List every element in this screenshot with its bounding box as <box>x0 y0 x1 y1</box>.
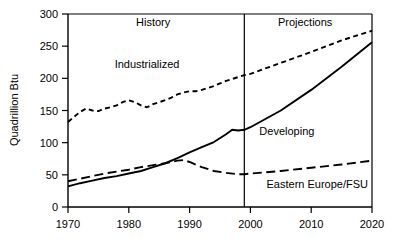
x-tick-label: 2000 <box>238 218 262 230</box>
y-tick-label: 300 <box>40 8 58 20</box>
x-tick-group: 197019801990200020102020 <box>56 207 384 230</box>
series-line-developing <box>68 42 372 186</box>
x-tick-label: 2010 <box>299 218 323 230</box>
y-axis-title: Quadrillion Btu <box>8 74 20 146</box>
x-axis: 197019801990200020102020 <box>56 207 384 230</box>
annotation-history: History <box>136 16 171 28</box>
annotation-group: HistoryProjectionsIndustrializedDevelopi… <box>115 16 368 191</box>
energy-consumption-chart: Quadrillion Btu 050100150200250300 19701… <box>0 0 397 248</box>
y-tick-label: 200 <box>40 72 58 84</box>
annotation-industrialized: Industrialized <box>115 58 180 70</box>
x-tick-label: 2020 <box>360 218 384 230</box>
y-tick-label: 250 <box>40 40 58 52</box>
series-line-industrialized <box>68 31 372 122</box>
y-tick-label: 150 <box>40 105 58 117</box>
x-tick-label: 1990 <box>177 218 201 230</box>
y-axis-title-text: Quadrillion Btu <box>8 74 20 146</box>
y-tick-label: 100 <box>40 137 58 149</box>
y-tick-group: 050100150200250300 <box>40 8 68 213</box>
annotation-developing: Developing <box>259 125 314 137</box>
series-group <box>68 31 372 187</box>
annotation-eastern-europe-fsu: Eastern Europe/FSU <box>267 178 369 190</box>
annotation-projections: Projections <box>278 16 333 28</box>
y-tick-label: 0 <box>52 201 58 213</box>
x-tick-label: 1980 <box>117 218 141 230</box>
x-tick-label: 1970 <box>56 218 80 230</box>
chart-canvas: Quadrillion Btu 050100150200250300 19701… <box>0 0 397 248</box>
y-tick-label: 50 <box>46 169 58 181</box>
y-axis: 050100150200250300 <box>40 8 68 213</box>
